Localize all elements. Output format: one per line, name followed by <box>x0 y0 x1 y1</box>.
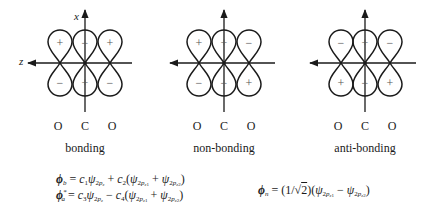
svg-text:−: − <box>246 36 253 50</box>
diagram-anti-bonding: −+− +−+ <box>310 10 416 112</box>
atom-label: O <box>247 119 256 134</box>
equation-phi-a-star: ϕ*a = c3ψ2pz − c4(ψ2pz1 + ψ2pz2) <box>56 186 183 207</box>
svg-text:−: − <box>387 36 394 50</box>
atom-label: O <box>193 119 202 134</box>
svg-text:+: + <box>246 76 253 90</box>
z-axis-label: z <box>19 55 23 67</box>
atom-label: O <box>334 119 343 134</box>
equation-phi-n: ϕn = (1/√2)(ψ2pz1 − ψ2pz2) <box>258 184 370 202</box>
svg-text:−: − <box>196 76 203 90</box>
atom-label: C <box>81 119 89 134</box>
x-axis-label: x <box>74 10 79 22</box>
sign: + <box>82 76 89 90</box>
atom-label: O <box>54 119 63 134</box>
svg-text:+: + <box>387 76 394 90</box>
sign: − <box>57 76 64 90</box>
sign: − <box>107 76 114 90</box>
svg-text:+: + <box>221 36 228 50</box>
svg-text:−: − <box>362 76 369 90</box>
diagram-non-bonding: ++− −−+ <box>170 10 275 112</box>
svg-text:−: − <box>221 76 228 90</box>
diagram-bonding: + − + − + − <box>28 10 132 112</box>
svg-text:−: − <box>338 36 345 50</box>
atom-label: C <box>361 119 369 134</box>
caption-non-bonding: non-bonding <box>193 141 254 156</box>
atom-label: O <box>108 119 117 134</box>
atom-label: O <box>388 119 397 134</box>
sign: + <box>57 36 64 50</box>
svg-text:+: + <box>362 36 369 50</box>
caption-bonding: bonding <box>65 141 104 156</box>
sign: − <box>82 36 89 50</box>
svg-text:+: + <box>338 76 345 90</box>
atom-label: C <box>220 119 228 134</box>
svg-text:+: + <box>196 36 203 50</box>
sign: + <box>107 36 114 50</box>
caption-anti-bonding: anti-bonding <box>334 141 395 156</box>
